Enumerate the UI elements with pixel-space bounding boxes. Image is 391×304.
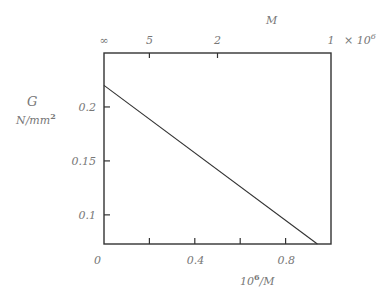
top-tick-label: ∞ — [99, 34, 108, 47]
top-axis-label: M — [265, 14, 278, 27]
x-tick-label: 0.8 — [278, 254, 296, 267]
y-tick-label: 0.1 — [79, 209, 97, 222]
y-axis-label-unit: N/mm2 — [15, 111, 56, 127]
chart: G N/mm2 M × 106 106/M 00.40.80.10.150.2∞… — [0, 0, 391, 304]
x-tick-label: 0.4 — [187, 254, 205, 267]
y-tick-label: 0.2 — [79, 101, 97, 114]
x-axis-label: 106/M — [240, 272, 275, 288]
top-tick-label: 5 — [146, 34, 153, 47]
axis-ticks — [104, 53, 286, 244]
series-line — [104, 85, 317, 244]
data-series — [104, 85, 317, 244]
top-tick-label: 1 — [328, 34, 335, 47]
top-axis-multiplier: × 106 — [344, 32, 376, 47]
y-axis-label-symbol: G — [27, 94, 37, 109]
y-tick-label: 0.15 — [72, 155, 97, 168]
plot-frame — [104, 53, 331, 244]
x-tick-label: 0 — [94, 254, 101, 267]
tick-labels: 00.40.80.10.150.2∞521 — [72, 34, 335, 267]
top-tick-label: 2 — [213, 34, 221, 47]
